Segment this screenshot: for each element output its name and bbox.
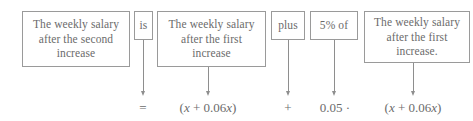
- equation-term-right: (x + 0.06x): [368, 99, 458, 117]
- phrase-box-first-increase-a: The weekly salary after the first increa…: [157, 11, 266, 67]
- equation-coefficient: 0.05 ·: [307, 99, 363, 117]
- phrase-box-first-increase-a-label: The weekly salary after the first increa…: [158, 17, 265, 61]
- equation-translation-diagram: The weekly salary after the second incre…: [0, 0, 473, 121]
- operator-box-is-label: is: [135, 18, 152, 33]
- equation-plus-sign: +: [271, 99, 305, 117]
- equation-term-right-text: (x + 0.06x): [385, 100, 442, 115]
- connector-arrow-first-increase-b: [413, 63, 414, 92]
- operator-box-is: is: [134, 11, 153, 40]
- operator-box-percent-of: 5% of: [310, 11, 358, 40]
- equation-equals-sign: =: [128, 99, 158, 117]
- operator-box-plus-label: plus: [272, 18, 304, 33]
- connector-arrow-is: [143, 40, 144, 92]
- phrase-box-second-increase: The weekly salary after the second incre…: [22, 11, 130, 67]
- equation-term-left-text: (x + 0.06x): [180, 100, 237, 115]
- phrase-box-first-increase-b-label: The weekly salary after the first increa…: [365, 15, 469, 59]
- connector-arrow-plus: [288, 40, 289, 92]
- phrase-box-first-increase-b: The weekly salary after the first increa…: [364, 11, 470, 63]
- connector-arrow-first-increase-a: [208, 67, 209, 92]
- equation-term-left: (x + 0.06x): [163, 99, 253, 117]
- phrase-box-second-increase-label: The weekly salary after the second incre…: [23, 17, 129, 61]
- connector-arrow-percent-of: [334, 40, 335, 92]
- operator-box-percent-of-label: 5% of: [311, 18, 357, 33]
- operator-box-plus: plus: [271, 11, 305, 40]
